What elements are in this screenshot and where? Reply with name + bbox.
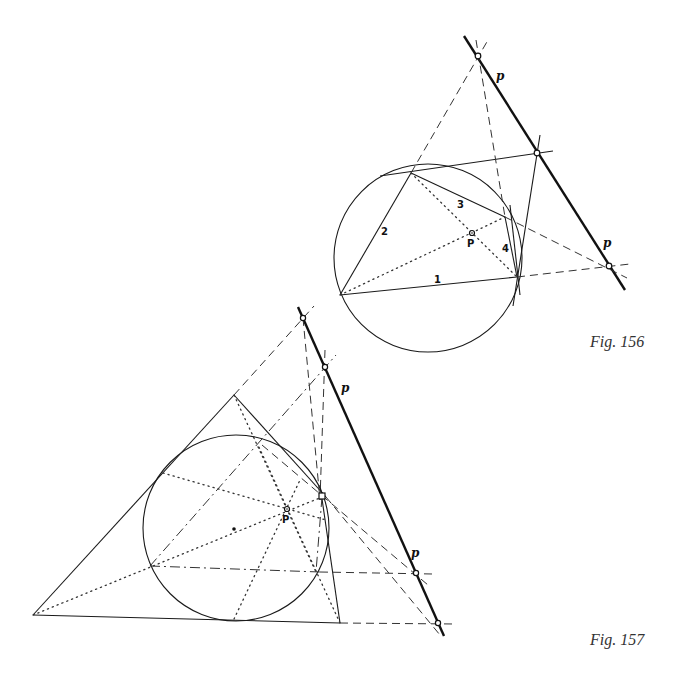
fig156-dash-extension-2 (411, 40, 488, 173)
fig157-dashdot-horizontal-chord (150, 566, 320, 572)
fig157-polar-line-p (298, 307, 444, 636)
fig156-side-1 (340, 277, 517, 295)
fig156-side-label-1: 1 (434, 274, 441, 285)
fig156-side-label-3: 3 (457, 199, 464, 210)
fig156-intersection-marker-top (475, 53, 481, 59)
fig156-circle (334, 164, 522, 352)
fig157-dot-cevian-4 (163, 473, 326, 520)
fig157-caption: Fig. 157 (589, 631, 645, 649)
fig157-triangle-side-right-lower (320, 485, 340, 623)
fig156-side-label-4: 4 (502, 243, 509, 254)
fig156-dash-top-vertical (476, 40, 505, 217)
fig156-pole-dot (471, 232, 473, 234)
fig157-dot-cevian-2 (234, 395, 316, 572)
fig157-polar-label-top: p (341, 381, 350, 395)
fig156-caption: Fig. 156 (589, 333, 644, 351)
fig156-diagonal-a (340, 217, 505, 295)
fig157-intersection-marker-2 (322, 364, 327, 369)
fig157-triangle-base (33, 615, 340, 623)
fig156-intersection-marker-mid (534, 150, 540, 156)
fig157-dash-chord-extension (150, 355, 336, 566)
fig156-tangent-right-b (513, 135, 540, 306)
diagram-page: P p p 1 2 3 4 Fig. 156 (0, 0, 675, 682)
fig157-dash-right-a (326, 497, 440, 635)
fig157-incircle (143, 435, 329, 621)
fig157-dot-cevian-5 (234, 480, 300, 619)
fig156-polar-label-top: p (496, 69, 505, 83)
fig157-tangent-point-marker (319, 493, 325, 499)
fig157-incircle-center (232, 527, 236, 531)
figure-156: P p p 1 2 3 4 Fig. 156 (334, 36, 644, 352)
fig157-intersection-marker-3 (413, 570, 418, 575)
fig157-dash-steep-a (303, 318, 320, 500)
fig156-pole-label: P (467, 238, 474, 249)
fig157-pole-dot (286, 508, 288, 510)
fig156-diagonal-b (411, 173, 517, 277)
fig157-pole-label: P (282, 514, 289, 525)
fig157-intersection-marker-4 (435, 620, 440, 625)
fig157-dash-steep-b (320, 350, 325, 500)
fig157-dot-cevian-1 (33, 497, 322, 615)
fig156-intersection-marker-bottom (606, 263, 612, 269)
fig157-dashdot-vertical-chord (316, 497, 322, 572)
diagram-canvas: P p p 1 2 3 4 Fig. 156 (0, 0, 675, 682)
fig156-polar-line-p (464, 36, 625, 290)
fig156-side-3 (411, 173, 505, 217)
fig156-polar-label-bottom: p (603, 236, 612, 250)
figure-157: P p p Fig. 157 (33, 306, 645, 649)
fig157-intersection-marker-1 (300, 315, 305, 320)
fig157-polar-label-bottom: p (411, 546, 420, 560)
fig156-side-label-2: 2 (381, 226, 388, 237)
fig156-side-2 (340, 173, 411, 295)
